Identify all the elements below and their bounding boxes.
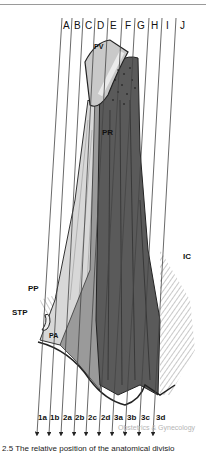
label-ic: IC bbox=[183, 252, 191, 261]
col-label-d: D bbox=[97, 20, 104, 31]
col-label-f: F bbox=[125, 20, 131, 31]
col-label-g: G bbox=[137, 20, 145, 31]
col-label-a: A bbox=[63, 20, 70, 31]
label-pp: PP bbox=[28, 284, 39, 293]
bottom-label-3a: 3a bbox=[114, 413, 123, 422]
figure-caption: 2.5 The relative position of the anatomi… bbox=[2, 444, 174, 453]
bottom-label-2b: 2b bbox=[75, 413, 84, 422]
col-label-i: I bbox=[166, 20, 169, 31]
ic-fibers bbox=[160, 250, 195, 395]
label-pv: PV bbox=[94, 43, 103, 50]
col-label-c: C bbox=[85, 20, 92, 31]
bottom-label-3b: 3b bbox=[127, 413, 136, 422]
bottom-label-1b: 1b bbox=[50, 413, 59, 422]
label-pr: PR bbox=[102, 128, 113, 137]
col-label-j: J bbox=[180, 20, 185, 31]
col-label-b: B bbox=[74, 20, 81, 31]
col-label-e: E bbox=[110, 20, 117, 31]
bottom-label-2a: 2a bbox=[63, 413, 72, 422]
bottom-label-3d: 3d bbox=[156, 413, 165, 422]
col-label-h: H bbox=[151, 20, 158, 31]
label-stp: STP bbox=[12, 308, 28, 317]
label-pa: PA bbox=[49, 332, 58, 339]
watermark: Obstetrics & Gynecology bbox=[118, 424, 195, 431]
bottom-label-2c: 2c bbox=[88, 413, 97, 422]
bottom-label-3c: 3c bbox=[141, 413, 150, 422]
bottom-label-1a: 1a bbox=[38, 413, 47, 422]
bottom-label-2d: 2d bbox=[101, 413, 110, 422]
